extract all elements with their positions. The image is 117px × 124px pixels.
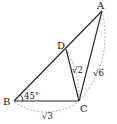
segment-dc xyxy=(66,49,79,101)
length-label-ac: √6 xyxy=(93,68,104,78)
triangle-diagram: A B C D 45° √2 √6 √3 xyxy=(0,0,117,124)
label-a: A xyxy=(96,0,105,11)
length-label-bc: √3 xyxy=(42,111,53,121)
length-label-dc: √2 xyxy=(72,65,83,75)
label-b: B xyxy=(3,96,10,107)
label-c: C xyxy=(80,103,88,114)
angle-arc-b xyxy=(20,95,23,101)
segment-ca xyxy=(79,11,102,101)
segment-ab xyxy=(14,11,102,101)
label-d: D xyxy=(57,40,65,51)
angle-label-b: 45° xyxy=(24,91,39,101)
